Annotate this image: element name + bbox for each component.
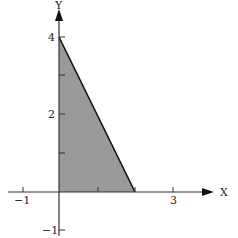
y-axis-label: Y: [54, 0, 63, 12]
tick-label-x-neg1: −1: [14, 194, 30, 207]
chart: X Y −1 3 4 2 −1: [0, 0, 238, 238]
tick-label-y-neg1: −1: [42, 224, 58, 237]
x-axis-arrow-icon: [202, 188, 214, 196]
tick-label-y-4: 4: [48, 31, 55, 44]
tick-label-y-2: 2: [48, 108, 55, 121]
x-axis-label: X: [220, 186, 228, 199]
x-ticks: [23, 187, 173, 192]
tick-label-x-3: 3: [170, 194, 177, 207]
